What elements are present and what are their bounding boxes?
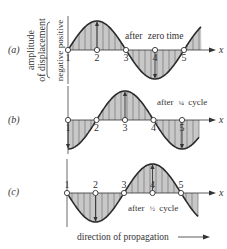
x-axis-arrowhead	[209, 48, 216, 53]
particle-label: 1	[65, 179, 70, 190]
particle-marker	[93, 190, 98, 195]
particle-label: 5	[180, 122, 185, 133]
particle-marker	[150, 190, 155, 195]
particle-label: 3	[122, 179, 127, 190]
caption-b-suffix: cycle	[188, 97, 207, 107]
wave-c: x12345	[64, 159, 224, 227]
x-axis-arrowhead	[209, 191, 216, 196]
x-axis-label: x	[218, 187, 224, 198]
panel-c: (c) x12345 after ½ cycle	[8, 159, 224, 227]
particle-label: 3	[123, 122, 128, 133]
particle-label: 3	[124, 52, 129, 63]
particle-label: 2	[93, 179, 98, 190]
caption-c-suffix: cycle	[159, 203, 178, 213]
x-axis-label: x	[218, 44, 224, 55]
x-axis-arrowhead	[209, 118, 216, 123]
wave-a: x12345	[65, 16, 224, 84]
caption-b-prefix: after	[157, 97, 173, 107]
caption-a-prefix: after	[125, 31, 143, 41]
panel-a: (a) amplitude of displacement positive n…	[8, 16, 224, 84]
caption-a: after zero time	[125, 31, 183, 41]
particle-label: 2	[95, 52, 100, 63]
caption-c-prefix: after	[128, 203, 144, 213]
panel-label-c: (c)	[8, 186, 20, 198]
positive-label: positive	[55, 20, 65, 49]
panel-label-b: (b)	[8, 114, 20, 126]
wave-diagram: (a) amplitude of displacement positive n…	[0, 0, 227, 249]
particle-marker	[178, 190, 183, 195]
propagation-label: direction of propagation	[77, 232, 169, 242]
caption-b-fraction: ¼	[179, 99, 184, 107]
amplitude-axis-label: amplitude of displacement	[25, 18, 47, 82]
particle-label: 1	[66, 52, 71, 63]
negative-label: negative	[55, 51, 65, 82]
particle-label: 1	[66, 122, 71, 133]
particle-label: 4	[151, 122, 156, 133]
caption-b: after ¼ cycle	[157, 97, 207, 107]
propagation-arrow	[178, 235, 210, 240]
axis-brace	[47, 22, 50, 78]
caption-a-suffix: zero time	[148, 31, 184, 41]
caption-c-fraction: ½	[150, 205, 155, 213]
amplitude-label-line1: amplitude	[25, 29, 36, 70]
particle-label: 4	[150, 179, 155, 190]
amplitude-label-line2: of displacement	[36, 18, 47, 82]
particle-label: 5	[182, 52, 187, 63]
particle-label: 5	[179, 179, 184, 190]
particle-label: 4	[153, 52, 158, 63]
particle-marker	[121, 190, 126, 195]
caption-c: after ½ cycle	[128, 203, 178, 213]
particle-marker	[64, 190, 69, 195]
panel-b: (b) x12345 after ¼ cycle	[8, 86, 224, 154]
panel-label-a: (a)	[8, 44, 20, 56]
x-axis-label: x	[218, 114, 224, 125]
particle-label: 2	[94, 122, 99, 133]
